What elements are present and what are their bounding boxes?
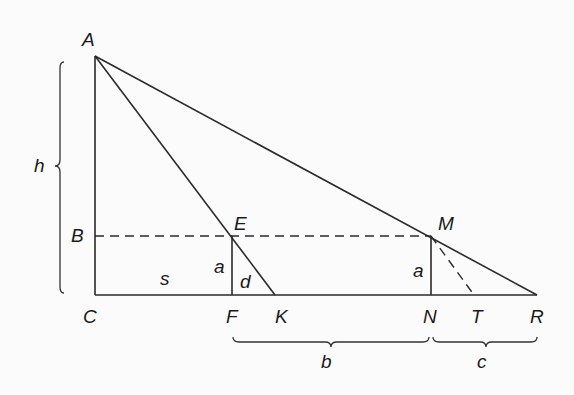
- label-R: R: [530, 306, 544, 327]
- label-F: F: [226, 306, 239, 327]
- dashed-segment-MT: [431, 236, 474, 295]
- label-N: N: [423, 306, 437, 327]
- geometry-diagram: A B C E F K M N T R h s a d a b c: [0, 0, 574, 395]
- label-T: T: [471, 306, 484, 327]
- brace-h: [55, 62, 64, 293]
- label-c: c: [477, 351, 487, 372]
- segment-AR: [95, 56, 537, 295]
- label-b: b: [321, 351, 332, 372]
- diagram-svg: A B C E F K M N T R h s a d a b c: [0, 0, 574, 395]
- label-a-left: a: [214, 256, 225, 277]
- label-B: B: [71, 225, 84, 246]
- label-d: d: [240, 271, 252, 292]
- label-E: E: [234, 213, 247, 234]
- label-s: s: [160, 268, 170, 289]
- label-K: K: [275, 306, 289, 327]
- label-A: A: [81, 29, 95, 50]
- brace-c: [433, 337, 537, 347]
- label-M: M: [438, 213, 454, 234]
- brace-b: [233, 337, 429, 347]
- segment-AK: [95, 56, 275, 295]
- label-a-right: a: [413, 260, 424, 281]
- label-h: h: [34, 155, 45, 176]
- label-C: C: [83, 306, 97, 327]
